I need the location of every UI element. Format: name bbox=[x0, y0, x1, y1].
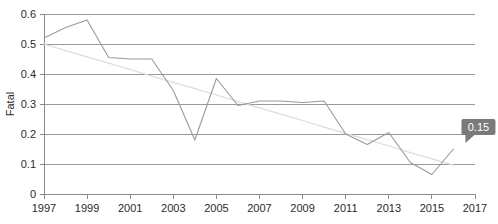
x-tick-label-2017: 2017 bbox=[463, 202, 487, 214]
fatal-series-line[interactable] bbox=[44, 20, 453, 175]
x-tick-label-2011: 2011 bbox=[334, 202, 358, 214]
value-tooltip[interactable]: 0.15 bbox=[461, 119, 495, 143]
gridlines bbox=[44, 14, 475, 164]
x-tick-label-1999: 1999 bbox=[75, 202, 99, 214]
x-tick-label-2007: 2007 bbox=[247, 202, 271, 214]
y-tick-label-0: 0 bbox=[30, 188, 36, 200]
y-tick-label-0.1: 0.1 bbox=[21, 158, 36, 170]
x-tick-label-2005: 2005 bbox=[204, 202, 228, 214]
x-tick-label-2001: 2001 bbox=[118, 202, 142, 214]
y-axis: 0.6 0.5 0.4 0.3 0.2 0.1 0 bbox=[21, 8, 44, 200]
tooltip-value-label: 0.15 bbox=[468, 121, 489, 133]
y-tick-label-0.6: 0.6 bbox=[21, 8, 36, 20]
tooltip-pointer bbox=[465, 135, 474, 143]
x-tick-label-2009: 2009 bbox=[290, 202, 314, 214]
y-tick-label-0.2: 0.2 bbox=[21, 128, 36, 140]
trend-line bbox=[44, 44, 453, 165]
chart-canvas: 0.6 0.5 0.4 0.3 0.2 0.1 0 Fatal 1997 199… bbox=[0, 0, 498, 224]
y-axis-title: Fatal bbox=[4, 92, 16, 116]
x-tick-label-1997: 1997 bbox=[32, 202, 56, 214]
x-axis: 1997 1999 2001 2003 2005 2007 2009 2011 … bbox=[32, 194, 487, 214]
y-tick-label-0.4: 0.4 bbox=[21, 68, 36, 80]
x-tick-label-2013: 2013 bbox=[377, 202, 401, 214]
y-tick-label-0.3: 0.3 bbox=[21, 98, 36, 110]
x-tick-label-2015: 2015 bbox=[420, 202, 444, 214]
line-chart: 0.6 0.5 0.4 0.3 0.2 0.1 0 Fatal 1997 199… bbox=[0, 0, 498, 224]
y-tick-label-0.5: 0.5 bbox=[21, 38, 36, 50]
x-tick-label-2003: 2003 bbox=[161, 202, 185, 214]
